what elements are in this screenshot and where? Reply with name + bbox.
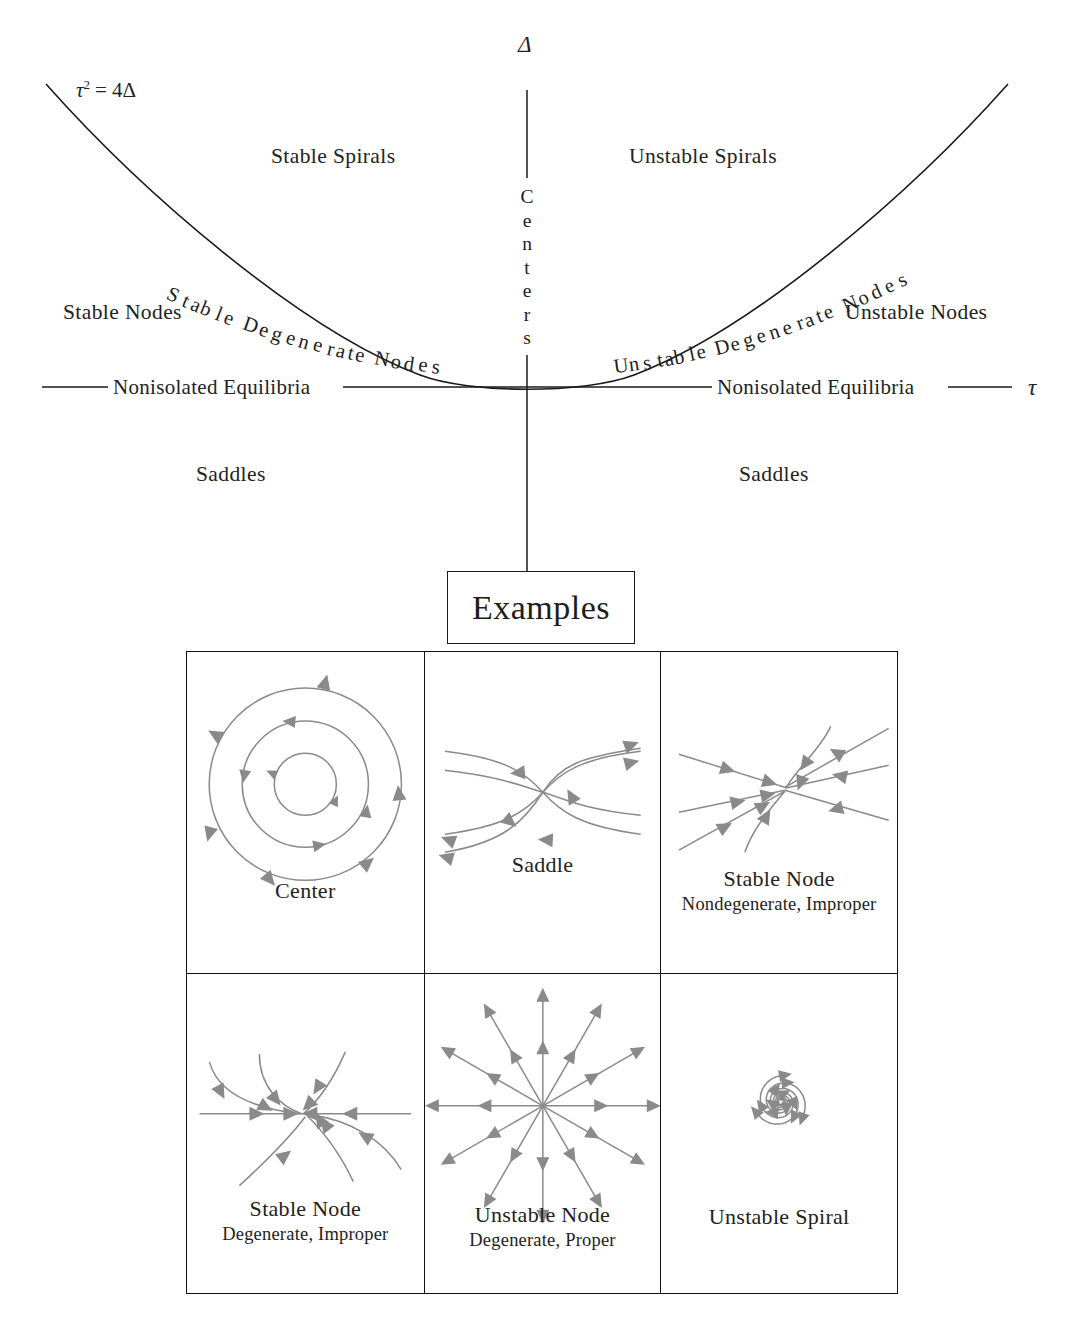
centers-letter-2: n [514,232,540,256]
example-caption-stable-node-nondegenerate: Stable Node Nondegenerate, Improper [661,866,897,915]
example-title-saddle: Saddle [425,852,661,878]
example-cell-stable-node-degenerate: Stable Node Degenerate, Improper [187,973,424,1294]
region-label-stable-spirals: Stable Spirals [271,144,395,169]
examples-heading-box: Examples [447,571,635,644]
phase-portrait-unstable-spiral [661,974,897,1294]
example-title-unstable-spiral: Unstable Spiral [661,1204,897,1230]
examples-grid: Center [186,651,898,1294]
example-cell-stable-node-nondegenerate: Stable Node Nondegenerate, Improper [660,652,897,973]
example-cell-center: Center [187,652,424,973]
phase-portrait-center [187,652,424,973]
centers-letter-4: e [514,279,540,303]
phase-portrait-saddle [425,652,661,973]
centers-letter-1: e [514,209,540,233]
delta-axis-symbol: Δ [518,32,532,58]
centers-letter-5: r [514,303,540,327]
region-label-saddles-left: Saddles [196,462,266,487]
example-cell-unstable-node-degenerate: Unstable Node Degenerate, Proper [424,973,661,1294]
example-caption-unstable-spiral: Unstable Spiral [661,1204,897,1230]
axis-label-nonisolated-equilibria-left: Nonisolated Equilibria [113,375,310,400]
region-label-unstable-spirals: Unstable Spirals [629,144,777,169]
trace-determinant-figure: Δ τ τ2= 4Δ C e n t e r s Stable Spirals … [0,0,1082,1329]
axis-label-nonisolated-equilibria-right: Nonisolated Equilibria [717,375,914,400]
tau-axis-symbol: τ [1028,375,1036,401]
example-caption-saddle: Saddle [425,852,661,878]
example-subtitle-stable-node-degenerate: Degenerate, Improper [187,1224,424,1245]
phase-portrait-stable-node-nondegenerate [661,652,897,973]
curve-equation-label: τ2= 4Δ [76,77,136,103]
example-subtitle-stable-node-nondegenerate: Nondegenerate, Improper [661,894,897,915]
example-caption-stable-node-degenerate: Stable Node Degenerate, Improper [187,1196,424,1245]
centers-letter-3: t [514,256,540,280]
example-subtitle-unstable-node-degenerate: Degenerate, Proper [425,1230,661,1251]
centers-label: C e n t e r s [514,185,540,350]
example-title-stable-node-degenerate: Stable Node [187,1196,424,1222]
phase-portrait-stable-node-degenerate [187,974,424,1294]
example-cell-saddle: Saddle [424,652,661,973]
example-title-stable-node-nondegenerate: Stable Node [661,866,897,892]
example-caption-unstable-node-degenerate: Unstable Node Degenerate, Proper [425,1202,661,1251]
centers-letter-0: C [514,185,540,209]
examples-heading-text: Examples [472,589,610,627]
curve-equation-exponent: 2 [84,77,91,92]
centers-letter-6: s [514,326,540,350]
example-caption-center: Center [187,878,424,904]
example-cell-unstable-spiral: Unstable Spiral [660,973,897,1294]
example-title-center: Center [187,878,424,904]
example-title-unstable-node-degenerate: Unstable Node [425,1202,661,1228]
region-label-saddles-right: Saddles [739,462,809,487]
curve-equation-base: τ [76,78,84,102]
curve-equation-rhs: = 4Δ [95,78,136,102]
